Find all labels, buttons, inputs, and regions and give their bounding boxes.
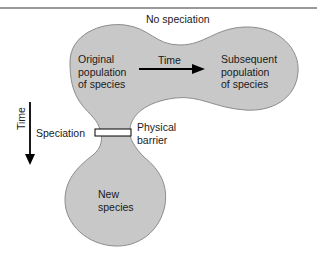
label-time-vertical: Time bbox=[15, 107, 27, 130]
label-no-speciation: No speciation bbox=[146, 13, 210, 26]
label-new-species: New species bbox=[98, 188, 134, 213]
label-physical-barrier: Physical barrier bbox=[137, 121, 176, 146]
label-subsequent-population: Subsequent population of species bbox=[221, 53, 277, 91]
label-original-population: Original population of species bbox=[78, 53, 126, 91]
label-time-horizontal: Time bbox=[158, 54, 181, 67]
label-speciation: Speciation bbox=[36, 127, 85, 140]
arrow-down-icon bbox=[25, 154, 35, 165]
physical-barrier bbox=[95, 129, 131, 136]
